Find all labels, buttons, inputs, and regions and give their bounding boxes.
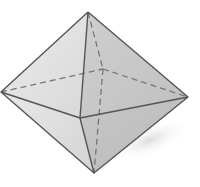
octahedron-drawing [0, 0, 200, 187]
